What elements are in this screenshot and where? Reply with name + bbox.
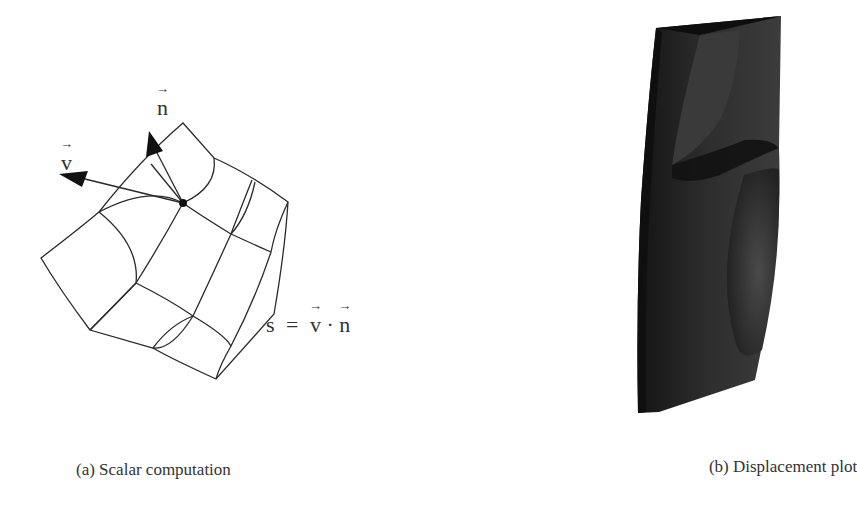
sample-point (179, 199, 187, 207)
equation: s = →v · →n (266, 312, 350, 338)
displacement-render (420, 0, 823, 506)
caption-b: (b) Displacement plot (709, 457, 857, 477)
v-vector-line (85, 179, 183, 203)
label-n: →n (157, 95, 168, 121)
panel-displacement-plot: (b) Displacement plot (420, 0, 823, 506)
label-v: →v (61, 150, 72, 176)
curved-mesh-grid (41, 123, 288, 379)
panel-scalar-computation: →v →n s = →v · →n (a) Scalar computation (0, 0, 420, 506)
mesh-diagram (0, 0, 420, 506)
caption-a: (a) Scalar computation (76, 460, 231, 480)
vectors (85, 149, 183, 203)
n-vector-line (155, 149, 183, 203)
